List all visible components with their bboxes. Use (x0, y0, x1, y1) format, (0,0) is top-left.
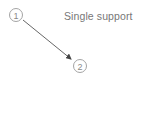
node-1-label: 1 (13, 11, 18, 21)
diagram-title: Single support (64, 10, 133, 22)
node-1: 1 (10, 9, 23, 22)
node-2: 2 (74, 60, 87, 73)
arrow-edge-1-to-2 (23, 20, 71, 59)
node-2-label: 2 (77, 62, 82, 72)
